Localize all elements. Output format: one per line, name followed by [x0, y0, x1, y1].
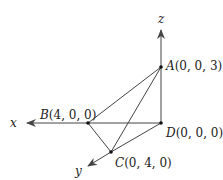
x-axis-label: x — [10, 116, 17, 130]
label-D-coords: (0, 0, 0) — [176, 126, 223, 140]
label-C: C(0, 4, 0) — [115, 156, 172, 170]
y-axis-label: y — [74, 164, 82, 178]
label-B: B(4, 0, 0) — [39, 108, 96, 122]
label-D: D(0, 0, 0) — [165, 126, 223, 140]
tetrahedron-diagram: z x y A(0, 0, 3) B(4, 0, 0) C(0, 4, 0) D… — [0, 0, 223, 180]
edge-CD — [111, 123, 161, 152]
edge-BC — [88, 123, 111, 152]
edge-AC — [111, 67, 161, 152]
point-D — [159, 121, 163, 125]
label-C-coords: (0, 4, 0) — [124, 156, 172, 170]
z-axis-label: z — [157, 12, 165, 26]
label-A-coords: (0, 0, 3) — [175, 59, 223, 73]
point-A — [159, 65, 163, 69]
label-B-coords: (4, 0, 0) — [49, 108, 97, 122]
edge-AB — [88, 67, 161, 123]
label-B-name: B — [39, 108, 49, 122]
point-C — [109, 150, 113, 154]
label-D-name: D — [165, 126, 176, 140]
label-C-name: C — [115, 156, 124, 170]
label-A-name: A — [165, 59, 175, 73]
y-axis — [88, 152, 111, 166]
label-A: A(0, 0, 3) — [165, 59, 222, 73]
